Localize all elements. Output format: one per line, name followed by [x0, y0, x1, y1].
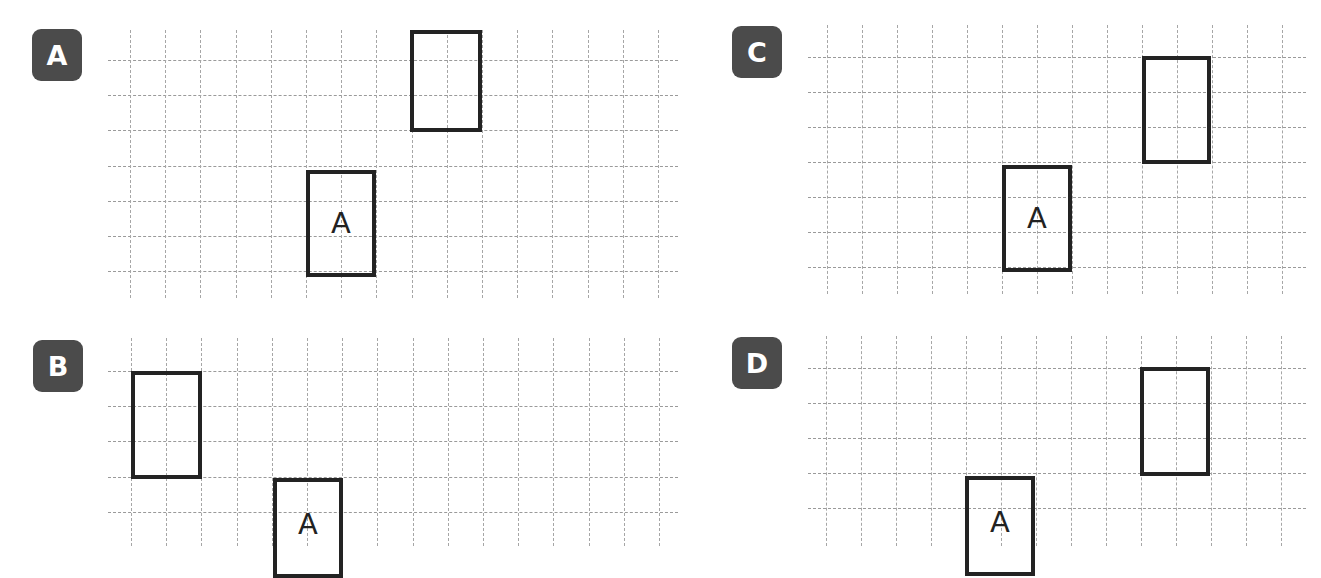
grid-hline: [808, 368, 1306, 369]
grid-hline: [108, 166, 678, 167]
grid-vline: [967, 25, 968, 294]
rectangle-label: A: [990, 508, 1010, 537]
grid-vline: [1211, 336, 1212, 546]
grid-vline: [932, 25, 933, 294]
grid-vline: [659, 338, 660, 546]
grid-hline: [108, 201, 678, 202]
grid-vline: [588, 30, 589, 298]
option-badge-d[interactable]: D: [732, 337, 782, 389]
grid-vline: [589, 338, 590, 546]
grid-vline: [1036, 336, 1037, 546]
grid-hline: [108, 95, 678, 96]
rectangle-label: A: [298, 510, 318, 539]
image-rectangle: [1140, 367, 1210, 476]
grid-vline: [517, 30, 518, 298]
grid-hline: [808, 92, 1306, 93]
image-rectangle: [1142, 56, 1211, 164]
grid-hline: [808, 473, 1306, 474]
grid-hline: [108, 236, 678, 237]
grid-hline: [808, 508, 1306, 509]
grid-hline: [808, 403, 1306, 404]
grid-vline: [237, 338, 238, 546]
grid-vline: [897, 25, 898, 294]
image-rectangle: [131, 371, 202, 479]
grid-hline: [108, 130, 678, 131]
grid-vline: [1106, 336, 1107, 546]
grid-vline: [1072, 25, 1073, 294]
grid-vline: [623, 30, 624, 298]
grid-vline: [1281, 336, 1282, 546]
grid-vline: [896, 336, 897, 546]
grid-vline: [483, 338, 484, 546]
image-rectangle: [410, 30, 482, 132]
grid-vline: [1282, 25, 1283, 294]
original-rectangle-a: A: [273, 478, 343, 578]
grid-vline: [1212, 25, 1213, 294]
grid-vline: [377, 338, 378, 546]
grid-vline: [827, 25, 828, 294]
grid-vline: [236, 30, 237, 298]
grid-vline: [931, 336, 932, 546]
grid-vline: [376, 30, 377, 298]
grid-hline: [808, 162, 1306, 163]
rectangle-label: A: [331, 209, 351, 238]
original-rectangle-a: A: [1002, 165, 1072, 272]
rectangle-label: A: [1027, 204, 1047, 233]
original-rectangle-a: A: [306, 170, 376, 277]
grid-vline: [552, 30, 553, 298]
grid-vline: [1107, 25, 1108, 294]
grid-vline: [482, 30, 483, 298]
option-badge-c[interactable]: C: [732, 26, 782, 78]
grid-vline: [518, 338, 519, 546]
grid-hline: [808, 438, 1306, 439]
grid-vline: [862, 25, 863, 294]
grid-vline: [165, 30, 166, 298]
grid-vline: [861, 336, 862, 546]
grid-vline: [553, 338, 554, 546]
grid-vline: [826, 336, 827, 546]
grid-hline: [808, 127, 1306, 128]
option-badge-b[interactable]: B: [33, 340, 83, 392]
grid-vline: [200, 30, 201, 298]
grid-vline: [658, 30, 659, 298]
grid-hline: [808, 57, 1306, 58]
option-badge-a[interactable]: A: [32, 29, 82, 81]
grid-vline: [624, 338, 625, 546]
grid-hline: [108, 512, 678, 513]
grid-vline: [1246, 336, 1247, 546]
grid-hline: [108, 271, 678, 272]
grid-vline: [413, 338, 414, 546]
grid-vline: [271, 30, 272, 298]
original-rectangle-a: A: [965, 476, 1035, 576]
grid-vline: [1247, 25, 1248, 294]
grid-vline: [1071, 336, 1072, 546]
grid-vline: [130, 30, 131, 298]
grid-hline: [108, 60, 678, 61]
grid-vline: [448, 338, 449, 546]
